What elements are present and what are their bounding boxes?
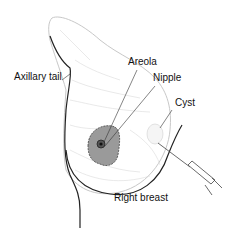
label-cyst: Cyst bbox=[175, 98, 195, 108]
label-nipple: Nipple bbox=[153, 73, 181, 83]
syringe-icon bbox=[158, 143, 222, 195]
label-axillary-tail: Axillary tail bbox=[14, 72, 62, 82]
label-areola: Areola bbox=[128, 57, 157, 67]
label-right-breast: Right breast bbox=[114, 193, 168, 203]
